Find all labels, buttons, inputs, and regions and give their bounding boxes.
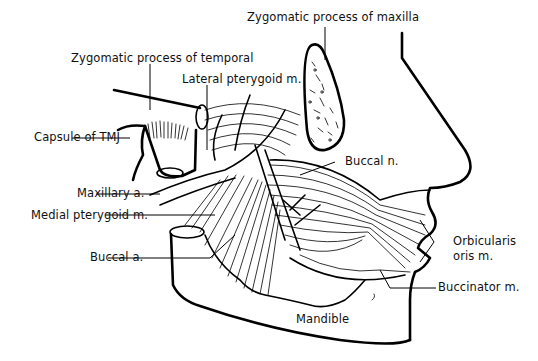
medial-pterygoid-muscle [185, 175, 280, 295]
label-buccal-artery: Buccal a. [90, 251, 143, 264]
label-maxillary-artery: Maxillary a. [77, 187, 145, 200]
label-buccal-nerve: Buccal n. [345, 155, 399, 168]
tmj-capsule-shape [118, 121, 196, 180]
label-medial-pterygoid: Medial pterygoid m. [31, 209, 148, 222]
label-buccinator: Buccinator m. [438, 281, 519, 294]
label-lateral-pterygoid: Lateral pterygoid m. [182, 73, 301, 86]
buccinator-muscle [268, 160, 430, 280]
label-orbicularis-oris-line1: Orbicularis [453, 235, 516, 248]
label-zygomatic-process-temporal: Zygomatic process of temporal [71, 52, 254, 65]
label-orbicularis-oris-line2: oris m. [453, 250, 493, 263]
label-mandible: Mandible [296, 313, 349, 326]
label-zygomatic-process-maxilla: Zygomatic process of maxilla [247, 11, 419, 24]
lateral-pterygoid-muscle [205, 104, 300, 155]
zygomatic-process-maxilla-shape [304, 44, 344, 150]
zygomatic-process-temporal-shape [114, 90, 208, 129]
label-capsule-tmj: Capsule of TMJ [34, 131, 120, 144]
